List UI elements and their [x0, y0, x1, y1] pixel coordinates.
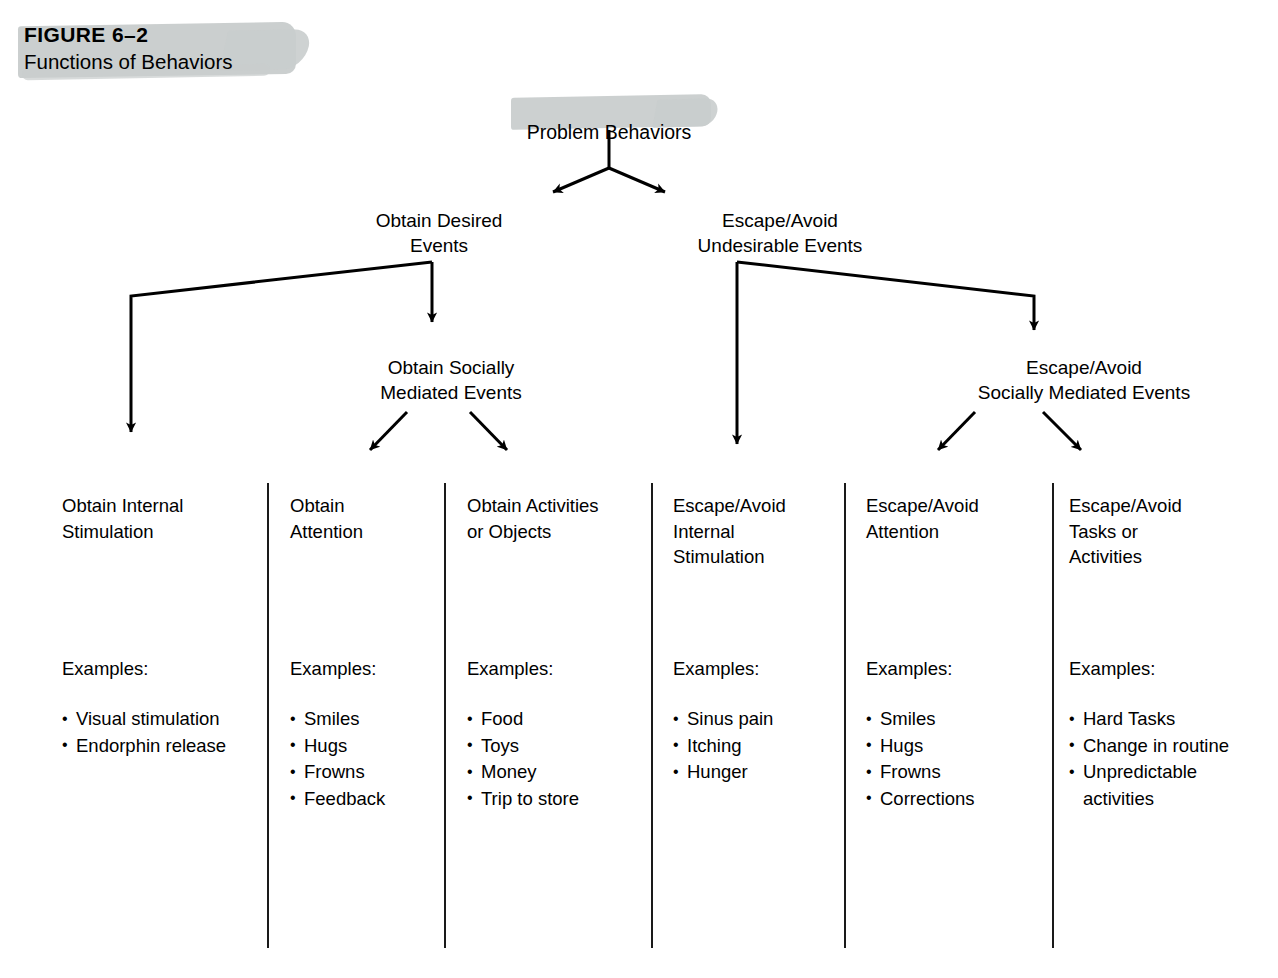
column-examples-list: FoodToysMoneyTrip to store [467, 706, 579, 812]
list-item: Hard Tasks [1069, 706, 1229, 733]
column-examples-list: SmilesHugsFrownsCorrections [866, 706, 975, 812]
connector-social-to-attention [370, 412, 407, 450]
list-item: Corrections [866, 786, 975, 813]
connector-escape-social-to-attention [938, 412, 975, 450]
column-examples-list: Visual stimulationEndorphin release [62, 706, 226, 759]
figure-caption-text: FIGURE 6–2 Functions of Behaviors [24, 22, 314, 75]
column-obtain-internal-stimulation: Obtain Internal Stimulation Examples: Vi… [62, 493, 267, 544]
connector-escape-to-social [737, 262, 1034, 330]
column-examples-list: SmilesHugsFrownsFeedback [290, 706, 385, 812]
list-item: Hunger [673, 759, 773, 786]
list-item: Endorphin release [62, 733, 226, 760]
column-escape-avoid-internal-stimulation: Escape/Avoid Internal Stimulation Exampl… [673, 493, 843, 570]
column-title: Obtain Internal Stimulation [62, 493, 267, 544]
node-problem-behaviors: Problem Behaviors [474, 95, 744, 145]
column-divider-3 [651, 483, 653, 948]
column-obtain-activities-or-objects: Obtain Activities or Objects Examples: F… [467, 493, 647, 544]
connector-root-to-obtain [553, 168, 609, 192]
list-item: Sinus pain [673, 706, 773, 733]
column-escape-avoid-attention: Escape/Avoid Attention Examples: SmilesH… [866, 493, 1046, 544]
column-title: Escape/Avoid Tasks or Activities [1069, 493, 1269, 570]
list-item: Unpredictable activities [1069, 759, 1229, 812]
column-divider-4 [844, 483, 846, 948]
column-title: Escape/Avoid Internal Stimulation [673, 493, 843, 570]
column-examples-label: Examples: [290, 656, 376, 682]
figure-page: FIGURE 6–2 Functions of Behaviors [0, 0, 1278, 978]
list-item: Itching [673, 733, 773, 760]
figure-title: Functions of Behaviors [24, 48, 314, 75]
list-item: Smiles [866, 706, 975, 733]
node-escape-avoid-undesirable-events: Escape/Avoid Undesirable Events [649, 208, 911, 258]
list-item: Visual stimulation [62, 706, 226, 733]
list-item: Frowns [866, 759, 975, 786]
figure-number: FIGURE 6–2 [24, 22, 314, 48]
list-item: Change in routine [1069, 733, 1229, 760]
column-examples-label: Examples: [1069, 656, 1155, 682]
column-examples-label: Examples: [866, 656, 952, 682]
column-examples-label: Examples: [673, 656, 759, 682]
connector-root-to-escape [609, 168, 665, 192]
list-item: Hugs [290, 733, 385, 760]
column-title: Escape/Avoid Attention [866, 493, 1046, 544]
column-examples-label: Examples: [62, 656, 148, 682]
list-item: Feedback [290, 786, 385, 813]
list-item: Frowns [290, 759, 385, 786]
column-title: Obtain Attention [290, 493, 440, 544]
figure-caption-block: FIGURE 6–2 Functions of Behaviors [18, 22, 318, 84]
list-item: Food [467, 706, 579, 733]
column-escape-avoid-tasks-or-activities: Escape/Avoid Tasks or Activities Example… [1069, 493, 1269, 570]
connector-escape-social-to-tasks [1043, 412, 1081, 450]
list-item: Money [467, 759, 579, 786]
node-obtain-socially-mediated-events: Obtain Socially Mediated Events [321, 355, 581, 405]
column-obtain-attention: Obtain Attention Examples: SmilesHugsFro… [290, 493, 440, 544]
list-item: Hugs [866, 733, 975, 760]
node-problem-behaviors-label: Problem Behaviors [527, 121, 692, 143]
list-item: Toys [467, 733, 579, 760]
list-item: Smiles [290, 706, 385, 733]
node-escape-avoid-socially-mediated-events: Escape/Avoid Socially Mediated Events [935, 355, 1233, 405]
list-item: Trip to store [467, 786, 579, 813]
column-divider-2 [444, 483, 446, 948]
node-obtain-desired-events: Obtain Desired Events [309, 208, 569, 258]
connector-social-to-activities [470, 412, 507, 450]
column-divider-1 [267, 483, 269, 948]
column-examples-list: Sinus painItchingHunger [673, 706, 773, 786]
diagram-connectors [0, 0, 1278, 978]
column-divider-5 [1052, 483, 1054, 948]
column-title: Obtain Activities or Objects [467, 493, 647, 544]
column-examples-list: Hard TasksChange in routineUnpredictable… [1069, 706, 1229, 812]
column-examples-label: Examples: [467, 656, 553, 682]
connector-obtain-to-internal [131, 262, 432, 432]
